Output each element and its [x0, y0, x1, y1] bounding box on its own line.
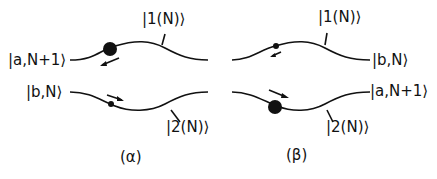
beta-b-n-label: |b,N⟩	[372, 53, 408, 68]
alpha-small-population-dot	[108, 101, 114, 107]
beta-state-2-label: |2(N)⟩	[326, 120, 369, 135]
beta-state-1-label: |1(N)⟩	[318, 10, 361, 25]
beta-upper-curve	[232, 42, 370, 60]
alpha-upper-curve	[70, 42, 208, 60]
alpha-lower-curve	[70, 92, 208, 110]
dressed-states-diagram: |1(N)⟩ |a,N+1⟩ |b,N⟩ |2(N)⟩ (α) |1(N)⟩ |…	[0, 0, 437, 179]
beta-a-n1-label: |a,N+1⟩	[370, 84, 428, 99]
alpha-b-n-label: |b,N⟩	[26, 85, 62, 100]
alpha-state-1-label: |1(N)⟩	[142, 12, 185, 27]
beta-caption: (β)	[286, 148, 307, 163]
beta-large-population-dot	[268, 100, 282, 114]
alpha-a-n1-label: |a,N+1⟩	[8, 53, 66, 68]
alpha-caption: (α)	[120, 150, 142, 165]
alpha-large-population-dot	[103, 42, 117, 56]
alpha-state-2-label: |2(N)⟩	[166, 120, 209, 135]
beta-small-population-dot	[273, 43, 279, 49]
beta-lower-curve	[232, 92, 370, 110]
